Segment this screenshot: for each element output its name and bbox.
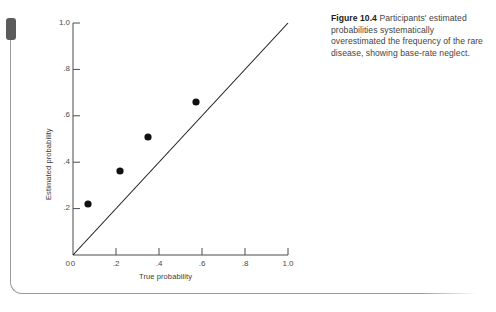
- y-tick-label: .6: [48, 110, 70, 119]
- data-point: [192, 98, 199, 105]
- y-tick-label: .2: [48, 203, 70, 212]
- x-tick-label: .2: [105, 259, 127, 268]
- x-tick-label: .6: [191, 259, 213, 268]
- identity-reference-line: [73, 23, 288, 255]
- y-tick-marks: [73, 23, 80, 209]
- y-tick-label: 1.0: [48, 18, 70, 27]
- data-point: [144, 133, 151, 140]
- scatter-chart: 1.0 .8 .6 .4 .2 0 0 .2 .4 .6 .8 1.0 Esti…: [0, 0, 330, 300]
- figure-caption-label: Figure 10.4: [331, 13, 377, 23]
- figure-caption: Figure 10.4 Participants' estimated prob…: [331, 13, 483, 59]
- y-axis-title: Estimated probability: [44, 128, 53, 200]
- x-axis-title: True probability: [139, 272, 192, 281]
- page-border-fade: [420, 288, 496, 296]
- x-tick-marks: [116, 248, 288, 255]
- x-tick-label: .8: [234, 259, 256, 268]
- y-tick-label: .8: [48, 64, 70, 73]
- x-tick-label: 0: [62, 259, 84, 268]
- data-point: [116, 167, 123, 174]
- x-tick-label: 1.0: [277, 259, 299, 268]
- data-point: [84, 200, 91, 207]
- data-point-group: [84, 98, 199, 207]
- x-tick-label: .4: [148, 259, 170, 268]
